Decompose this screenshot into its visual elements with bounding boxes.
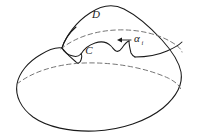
label-alpha-subscript: i [142, 39, 144, 46]
crest-ridge-line [62, 27, 76, 48]
alpha-pointer-arrowhead [117, 38, 122, 43]
solid-outline [17, 6, 182, 131]
base-ellipse-hidden-arc [17, 63, 181, 90]
region-d-boundary [62, 48, 81, 56]
figure-canvas: D C α i [0, 0, 205, 139]
geometry-figure: D C α i [0, 0, 205, 139]
label-alpha: α [134, 32, 140, 44]
label-region-d: D [91, 8, 100, 20]
label-curve-c: C [85, 44, 93, 56]
